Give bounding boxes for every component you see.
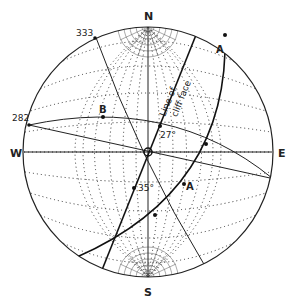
stereonet-diagram: N S E W 333 282 A A B 27° 35° Line of cl… bbox=[0, 0, 295, 303]
label-east: E bbox=[278, 147, 286, 160]
point-label-b: B bbox=[99, 104, 107, 115]
point-a-top-marker bbox=[223, 33, 227, 37]
label-north: N bbox=[144, 10, 153, 23]
point-b-marker bbox=[101, 115, 105, 119]
azimuth-label-333: 333 bbox=[76, 28, 93, 38]
point-27-marker bbox=[158, 124, 162, 128]
angle-label-35: 35° bbox=[138, 183, 154, 193]
point-east-marker bbox=[204, 142, 208, 146]
azimuth-label-282: 282 bbox=[12, 113, 29, 123]
great-circle-a bbox=[77, 33, 225, 257]
label-west: W bbox=[10, 147, 22, 160]
angle-label-27: 27° bbox=[160, 130, 176, 140]
point-282-marker bbox=[27, 123, 31, 127]
point-35-marker bbox=[132, 186, 136, 190]
point-intersection-marker bbox=[153, 213, 157, 217]
point-label-a-lower: A bbox=[186, 181, 194, 192]
point-333-marker bbox=[93, 36, 97, 40]
cliff-face-annotation: Line of cliff face bbox=[158, 74, 193, 121]
label-south: S bbox=[144, 286, 152, 299]
point-label-a-top: A bbox=[216, 44, 224, 55]
